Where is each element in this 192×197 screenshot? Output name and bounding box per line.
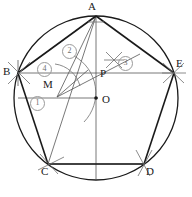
step-number-2: 2	[62, 44, 77, 59]
point-label-A: A	[88, 1, 96, 12]
step-number-3: 3	[118, 56, 133, 71]
point-label-O: O	[102, 94, 110, 105]
step-number-4: 4	[37, 62, 52, 77]
arc-centered-M-through-P	[74, 56, 96, 122]
segment-AM-line	[57, 16, 96, 97]
point-label-B: B	[3, 66, 10, 77]
point-label-P: P	[100, 68, 106, 79]
point-label-C: C	[41, 166, 48, 177]
segment-AC-line	[48, 16, 96, 164]
point-label-E: E	[176, 58, 183, 69]
point-label-D: D	[146, 166, 154, 177]
center-point-O-dot	[94, 96, 98, 100]
pentagon-edge-EA	[96, 16, 174, 73]
point-label-M: M	[43, 79, 53, 90]
step-number-1: 1	[30, 96, 45, 111]
geometry-figure: A B C D E O P M 1 2 3 4	[0, 0, 192, 197]
construction-drawing	[0, 0, 192, 197]
